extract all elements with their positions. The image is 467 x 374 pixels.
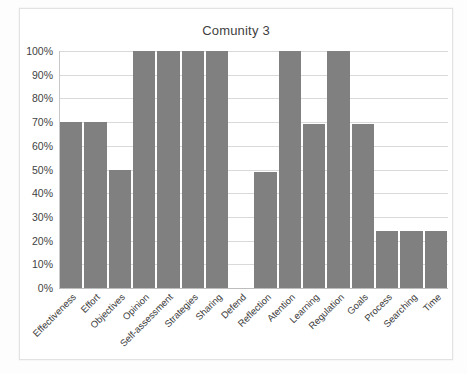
bar bbox=[109, 170, 131, 289]
bar-slot bbox=[375, 51, 399, 288]
x-axis-tick-slot: Atention bbox=[278, 290, 302, 356]
bar-slot bbox=[59, 51, 83, 288]
bar bbox=[84, 122, 106, 288]
x-axis-tick-slot: Time bbox=[424, 290, 448, 356]
chart-title: Comunity 3 bbox=[20, 23, 452, 38]
bar bbox=[327, 51, 349, 288]
bar-slot bbox=[181, 51, 205, 288]
bar-slot bbox=[278, 51, 302, 288]
bar-slot bbox=[399, 51, 423, 288]
y-axis-tick-labels: 100%90%80%70%60%50%40%30%20%10%0% bbox=[20, 51, 56, 288]
bar bbox=[133, 51, 155, 288]
bar-slot bbox=[351, 51, 375, 288]
bar-slot bbox=[108, 51, 132, 288]
x-axis-tick-slot: Regulation bbox=[326, 290, 350, 356]
y-axis-tick-label: 60% bbox=[32, 141, 53, 152]
bar bbox=[254, 172, 276, 288]
y-axis-tick-label: 70% bbox=[32, 117, 53, 128]
bar bbox=[303, 124, 325, 288]
x-axis-tick-label: Effectiveness bbox=[31, 292, 78, 339]
bar bbox=[400, 231, 422, 288]
x-axis-tick-slot: Reflection bbox=[254, 290, 278, 356]
bar-slot bbox=[302, 51, 326, 288]
x-axis-tick-label: Time bbox=[421, 292, 442, 313]
bar bbox=[376, 231, 398, 288]
gridline bbox=[59, 288, 448, 289]
bar-slot bbox=[424, 51, 448, 288]
bar-slot bbox=[326, 51, 350, 288]
x-axis-tick-slot: Searching bbox=[399, 290, 423, 356]
chart-frame: Comunity 3 100%90%80%70%60%50%40%30%20%1… bbox=[19, 8, 453, 360]
bar bbox=[157, 51, 179, 288]
y-axis-tick-label: 0% bbox=[38, 283, 53, 294]
plot-area bbox=[59, 51, 448, 288]
bar-slot bbox=[132, 51, 156, 288]
y-axis-tick-label: 20% bbox=[32, 235, 53, 246]
y-axis-tick-label: 50% bbox=[32, 164, 53, 175]
bar-slot bbox=[83, 51, 107, 288]
bar bbox=[182, 51, 204, 288]
y-axis-line bbox=[59, 51, 60, 288]
bar bbox=[425, 231, 447, 288]
x-axis-tick-slot: Sharing bbox=[205, 290, 229, 356]
x-axis-tick-slot: Strategies bbox=[181, 290, 205, 356]
bar bbox=[352, 124, 374, 288]
x-axis-tick-slot: Objectives bbox=[108, 290, 132, 356]
bar-slot bbox=[254, 51, 278, 288]
bar bbox=[60, 122, 82, 288]
x-axis-tick-labels: EffectivenessEffortObjectivesOpinionSelf… bbox=[59, 290, 448, 356]
y-axis-tick-label: 40% bbox=[32, 188, 53, 199]
y-axis-tick-label: 100% bbox=[26, 46, 53, 57]
x-axis-tick-slot: Effectiveness bbox=[59, 290, 83, 356]
y-axis-tick-label: 10% bbox=[32, 259, 53, 270]
bar-slot bbox=[156, 51, 180, 288]
y-axis-tick-label: 90% bbox=[32, 69, 53, 80]
y-axis-tick-label: 30% bbox=[32, 212, 53, 223]
x-axis-tick-slot: Goals bbox=[351, 290, 375, 356]
chart-page: Comunity 3 100%90%80%70%60%50%40%30%20%1… bbox=[0, 0, 467, 374]
bar-series bbox=[59, 51, 448, 288]
bar-slot bbox=[229, 51, 253, 288]
bar-slot bbox=[205, 51, 229, 288]
bar bbox=[279, 51, 301, 288]
bar bbox=[206, 51, 228, 288]
y-axis-tick-label: 80% bbox=[32, 93, 53, 104]
